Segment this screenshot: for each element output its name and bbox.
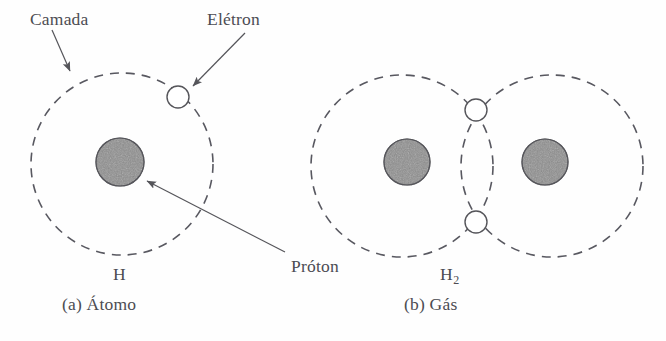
figure-page: Camada Elétron Próton H H2 (a) Átomo (b)… <box>0 0 666 341</box>
atom-gas-diagram <box>0 0 666 341</box>
panel-atom <box>31 73 213 255</box>
formula-hydrogen-gas-subscript: 2 <box>453 273 459 287</box>
electron-gas-top <box>465 99 487 121</box>
camada-arrow <box>52 30 70 71</box>
eletron-arrow <box>193 33 245 86</box>
proton-arrow <box>147 181 285 252</box>
electron-atom <box>167 86 189 108</box>
label-eletron: Elétron <box>207 11 260 29</box>
label-camada: Camada <box>30 11 89 29</box>
caption-panel-a: (a) Átomo <box>62 296 136 314</box>
panel-gas <box>311 75 643 257</box>
caption-panel-b: (b) Gás <box>404 296 457 314</box>
label-proton: Próton <box>291 258 339 276</box>
formula-hydrogen-gas: H2 <box>440 266 459 284</box>
formula-hydrogen-gas-base: H <box>440 264 453 284</box>
formula-hydrogen-atom: H <box>113 266 126 284</box>
electron-gas-bottom <box>465 211 487 233</box>
annotation-arrows <box>52 30 285 252</box>
